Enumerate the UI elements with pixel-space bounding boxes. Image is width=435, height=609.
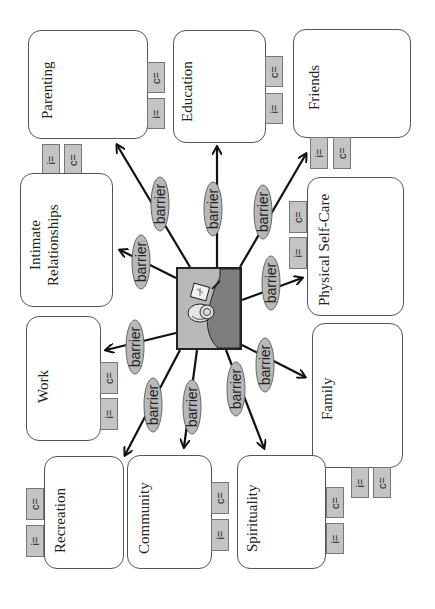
tag-label: c= (29, 498, 41, 510)
tag-consistency-selfcare[interactable]: c= (289, 201, 307, 233)
tag-importance-friends[interactable]: i= (310, 137, 328, 169)
tag-consistency-family[interactable]: c= (373, 467, 391, 498)
tag-label: c= (150, 72, 162, 84)
tag-consistency-friends[interactable]: c= (333, 137, 351, 169)
tag-label: i= (354, 478, 366, 487)
domain-label-parenting: Parenting (39, 62, 56, 120)
tag-label: c= (376, 477, 388, 489)
tag-label: c= (336, 147, 348, 159)
tag-label: i= (214, 531, 226, 540)
barrier-text: barrier (127, 326, 143, 367)
domain-box-work[interactable]: Work (26, 316, 101, 441)
domain-box-education[interactable]: Education (173, 30, 266, 143)
tag-label: c= (214, 492, 226, 504)
tag-consistency-parenting[interactable]: c= (147, 62, 165, 93)
barrier-text: barrier (145, 384, 161, 425)
barrier-text: barrier (257, 344, 273, 385)
tag-label: i= (292, 249, 304, 258)
tag-label: i= (29, 537, 41, 546)
tag-importance-selfcare[interactable]: i= (289, 237, 307, 269)
barrier-text: barrier (184, 386, 200, 427)
domain-label-recreation: Recreation (52, 488, 69, 553)
tag-importance-intimate[interactable]: i= (42, 144, 60, 175)
center-snail-box (176, 267, 242, 350)
tag-consistency-education[interactable]: c= (265, 56, 283, 87)
tag-importance-community[interactable]: i= (211, 519, 229, 551)
tag-label: i= (45, 155, 57, 164)
domain-label-family: Family (319, 377, 336, 420)
tag-label: i= (329, 534, 341, 543)
domain-box-recreation[interactable]: Recreation (44, 456, 124, 569)
domain-label-relationships: Relationships (45, 204, 62, 286)
tag-label: c= (268, 66, 280, 78)
tag-label: c= (329, 497, 341, 509)
domain-box-intimate-relationships[interactable]: Intimate Relationships (20, 173, 113, 307)
snail-with-paper-icon (178, 269, 240, 348)
domain-label-intimate: Intimate (27, 220, 44, 270)
domain-label-community: Community (136, 482, 153, 554)
domain-box-spirituality[interactable]: Spirituality (237, 455, 326, 569)
domain-box-friends[interactable]: Friends (293, 29, 411, 138)
tag-label: c= (67, 154, 79, 166)
barrier-text: barrier (255, 191, 271, 232)
tag-label: i= (268, 104, 280, 113)
barrier-text: barrier (133, 241, 149, 282)
tag-label: c= (292, 211, 304, 223)
domain-label-work: Work (35, 370, 52, 403)
tag-consistency-work[interactable]: c= (100, 362, 118, 394)
domain-label-selfcare: Physical Self-Care (316, 194, 333, 306)
barrier-text: barrier (263, 262, 279, 303)
tag-label: i= (313, 149, 325, 158)
tag-importance-recreation[interactable]: i= (26, 525, 44, 557)
domain-box-community[interactable]: Community (127, 455, 212, 569)
barrier-text: barrier (228, 368, 244, 409)
tag-consistency-intimate[interactable]: c= (64, 144, 82, 175)
barrier-text: barrier (152, 183, 168, 224)
tag-label: i= (150, 109, 162, 118)
tag-importance-work[interactable]: i= (100, 398, 118, 430)
domain-box-family[interactable]: Family (312, 323, 403, 468)
tag-label: i= (103, 410, 115, 419)
barrier-text: barrier (205, 188, 221, 229)
domain-label-friends: Friends (306, 65, 323, 110)
domain-box-parenting[interactable]: Parenting (28, 30, 148, 139)
tag-importance-spirituality[interactable]: i= (326, 523, 344, 554)
tag-importance-parenting[interactable]: i= (147, 98, 165, 129)
domain-box-physical-self-care[interactable]: Physical Self-Care (307, 177, 404, 316)
tag-consistency-community[interactable]: c= (211, 482, 229, 514)
tag-importance-education[interactable]: i= (265, 93, 283, 124)
tag-consistency-spirituality[interactable]: c= (326, 487, 344, 518)
tag-label: c= (103, 372, 115, 384)
tag-consistency-recreation[interactable]: c= (26, 488, 44, 520)
tag-importance-family[interactable]: i= (351, 467, 369, 498)
domain-label-spirituality: Spirituality (244, 485, 261, 553)
domain-label-education: Education (179, 61, 196, 122)
